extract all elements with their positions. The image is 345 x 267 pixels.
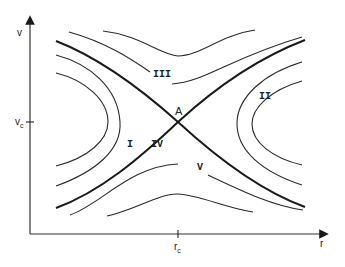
region-label-V: V xyxy=(197,163,203,173)
region-label-IV: IV xyxy=(151,140,163,150)
x-axis-label: r xyxy=(320,239,323,249)
rc-sub: c xyxy=(177,247,181,254)
curve-right-outer xyxy=(237,62,302,185)
curve-bottom-outer xyxy=(107,194,253,216)
curve-top-inner-right xyxy=(172,37,302,84)
rc-tick-label: rc xyxy=(174,242,181,252)
phase-diagram xyxy=(0,0,345,267)
curve-top-outer xyxy=(103,30,255,56)
curve-left-outer xyxy=(56,55,120,186)
vc-tick-label: vc xyxy=(15,117,24,127)
vc-sub: c xyxy=(20,122,24,129)
y-axis-label: v xyxy=(17,28,22,38)
region-label-III: III xyxy=(153,70,171,80)
critical-point-label: A xyxy=(175,106,182,117)
separatrix-descending xyxy=(56,41,305,207)
curve-left-inner xyxy=(56,73,108,166)
region-label-I: I xyxy=(127,140,133,150)
region-label-II: II xyxy=(259,92,271,102)
